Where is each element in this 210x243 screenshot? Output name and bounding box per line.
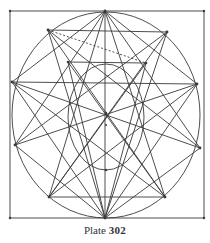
point-top-right-corner [203, 10, 205, 12]
point-A [104, 10, 107, 13]
chord-inner-top [68, 62, 146, 63]
point-center-upper [105, 112, 107, 114]
point-S [164, 196, 167, 199]
point-V [196, 83, 199, 86]
plate-caption: Plate 302 [0, 224, 210, 236]
point-inner-bottom [105, 169, 107, 171]
caption-number: 302 [109, 224, 126, 236]
point-inner-left [67, 61, 70, 64]
point-K [11, 81, 14, 84]
point-M [47, 29, 50, 32]
line-K-F [12, 82, 105, 218]
geometric-construction-diagram [0, 0, 210, 243]
line-A-L [15, 11, 105, 145]
chord-top [48, 30, 167, 32]
chord-K-V [12, 82, 197, 84]
line-V-F [105, 84, 197, 218]
point-F [104, 217, 107, 220]
point-B [9, 217, 11, 219]
point-T [48, 196, 51, 199]
point-E [203, 217, 205, 219]
line-A-K [12, 11, 105, 82]
point-center [105, 124, 107, 126]
point-R [199, 147, 202, 150]
point-top-left-corner [9, 10, 11, 12]
caption-label: Plate [84, 224, 106, 236]
point-L [14, 144, 17, 147]
line-A-T [49, 11, 105, 197]
line-A-V [105, 11, 197, 84]
line-V-T [49, 84, 197, 197]
point-inner-right [145, 62, 148, 65]
point-C [166, 31, 169, 34]
